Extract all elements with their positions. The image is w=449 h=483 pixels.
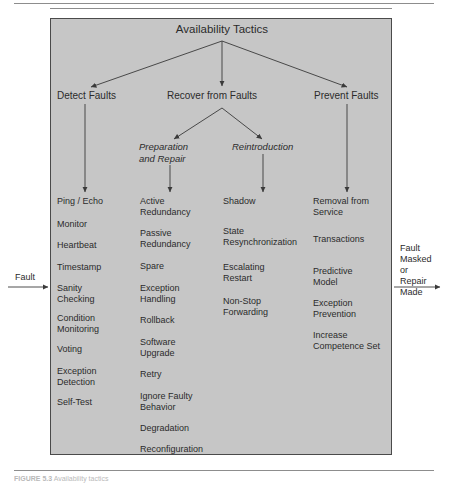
- tactic-item: Retry: [140, 369, 162, 380]
- figure-caption-label: FIGURE 5.3: [14, 475, 52, 482]
- tactic-item: Software Upgrade: [140, 337, 176, 358]
- tactic-item: Heartbeat: [57, 240, 97, 251]
- tactic-item: Ping / Echo: [57, 196, 103, 207]
- node-prevent-faults: Prevent Faults: [314, 90, 378, 102]
- node-reintroduction: Reintroduction: [232, 141, 293, 153]
- tactic-item: Sanity Checking: [57, 283, 95, 304]
- tactic-item: State Resynchronization: [223, 226, 297, 247]
- tactic-item: Predictive Model: [313, 266, 353, 287]
- figure-caption-text: Availability tactics: [54, 475, 109, 482]
- tactic-item: Removal from Service: [313, 196, 369, 217]
- figure-caption: FIGURE 5.3 Availability tactics: [14, 474, 434, 483]
- tactic-item: Timestamp: [57, 262, 101, 273]
- tactic-item: Spare: [140, 261, 164, 272]
- node-preparation-and-repair: Preparation and Repair: [139, 141, 188, 164]
- tactic-item: Degradation: [140, 423, 189, 434]
- node-detect-faults: Detect Faults: [57, 90, 116, 102]
- page-rule-bottom: [14, 470, 434, 471]
- tactic-item: Self-Test: [57, 397, 92, 408]
- tactic-item: Shadow: [223, 196, 256, 207]
- fault-input-label: Fault: [15, 272, 35, 283]
- tactic-item: Passive Redundancy: [140, 228, 191, 249]
- page-rule-top-short: [50, 8, 392, 9]
- tactic-item: Exception Handling: [140, 283, 180, 304]
- diagram-title: Availability Tactics: [152, 24, 292, 36]
- tactic-item: Reconfiguration: [140, 444, 203, 455]
- tactic-item: Exception Prevention: [313, 298, 356, 319]
- tactic-item: Transactions: [313, 234, 364, 245]
- tactic-item: Condition Monitoring: [57, 313, 99, 334]
- tactic-item: Rollback: [140, 315, 175, 326]
- tactic-item: Monitor: [57, 219, 87, 230]
- tactic-item: Exception Detection: [57, 366, 97, 387]
- tactic-item: Ignore Faulty Behavior: [140, 391, 193, 412]
- tactic-item: Increase Competence Set: [313, 330, 380, 351]
- tactic-item: Non-Stop Forwarding: [223, 296, 268, 317]
- tactic-item: Escalating Restart: [223, 262, 265, 283]
- page-rule-top-long: [14, 3, 434, 4]
- fault-output-label: Fault Masked or Repair Made: [400, 243, 432, 298]
- node-recover-from-faults: Recover from Faults: [167, 90, 257, 102]
- tactic-item: Voting: [57, 344, 82, 355]
- tactic-item: Active Redundancy: [140, 196, 191, 217]
